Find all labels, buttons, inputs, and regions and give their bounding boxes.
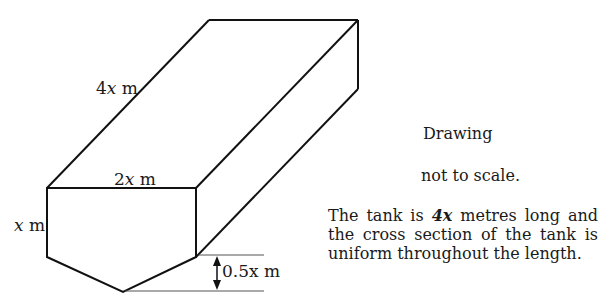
arrow-down-icon bbox=[213, 280, 221, 290]
tank-description: The tank is 4x metres long and the cross… bbox=[328, 206, 598, 263]
drawing-note: Drawing bbox=[423, 124, 492, 143]
length-emphasis: 4x bbox=[432, 206, 453, 225]
arrow-up-icon bbox=[213, 256, 221, 266]
front-cross-section bbox=[47, 188, 196, 292]
width-label: 2x m bbox=[114, 171, 156, 188]
height-label: x m bbox=[14, 217, 45, 234]
length-label: 4x m bbox=[96, 80, 138, 97]
right-top-receding-edge bbox=[196, 20, 358, 188]
depth-label: 0.5x m bbox=[222, 263, 280, 280]
left-receding-edge bbox=[47, 20, 209, 188]
scale-note: not to scale. bbox=[421, 166, 520, 185]
